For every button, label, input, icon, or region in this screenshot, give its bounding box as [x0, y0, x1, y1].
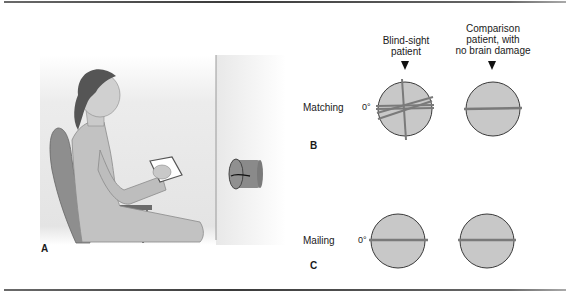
- matching-blindsight-circle: [376, 79, 434, 140]
- mailing-blindsight-circle: [369, 214, 428, 268]
- arrow-down-icon: [488, 61, 496, 70]
- matching-comparison-circle: [464, 82, 522, 136]
- orientation-plots: [0, 0, 566, 292]
- arrow-down-icon: [401, 61, 409, 70]
- mailing-comparison-circle: [458, 214, 516, 268]
